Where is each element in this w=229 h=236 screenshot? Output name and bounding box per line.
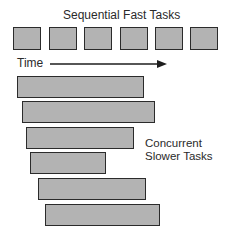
concurrent-task-bar [38, 178, 146, 200]
concurrent-task-bar [22, 101, 155, 123]
concurrent-tasks-label-line2: Slower Tasks [145, 150, 213, 163]
concurrent-task-bar [26, 127, 134, 149]
concurrent-task-bar [17, 76, 144, 98]
concurrent-tasks-label-line1: Concurrent [145, 137, 202, 150]
time-arrow-head [157, 60, 167, 68]
concurrent-task-bar [30, 152, 106, 174]
concurrent-task-bar [45, 204, 160, 226]
